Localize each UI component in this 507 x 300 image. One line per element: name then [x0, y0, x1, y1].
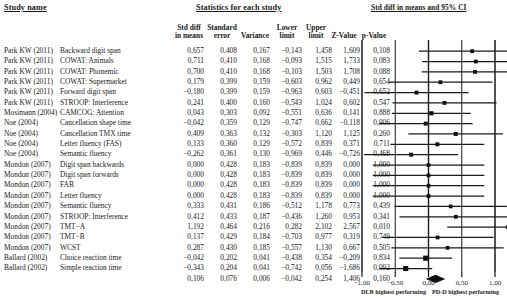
cell-outcome: STROOP: Interference [60, 98, 128, 108]
cell-variance: 0,183 [236, 160, 270, 170]
axis-tick-label-2: 0,00 [413, 279, 445, 287]
cell-std_error: 0,428 [203, 180, 237, 190]
cell-lower: −0,703 [268, 232, 302, 242]
cell-std_diff: −0,262 [170, 149, 204, 159]
footer-left-label: DLB highest performing [361, 288, 426, 295]
cell-std_error: 0,363 [203, 129, 237, 139]
cell-outcome: FAB [60, 180, 74, 190]
cell-std_error: 0,361 [203, 149, 237, 159]
effect-marker [443, 101, 447, 105]
effect-marker [473, 70, 477, 74]
axis-tick-label-1: −0,50 [379, 279, 411, 287]
cell-std_diff: 0,287 [170, 243, 204, 253]
cell-std_error: 0,428 [203, 170, 237, 180]
table-row: Noe (2004)Semantic fluency−0,2620,3610,1… [0, 149, 356, 159]
table-row: Park KW (2011)STROOP: Interference0,2410… [0, 98, 356, 108]
cell-outcome: Letter fluency [60, 191, 102, 201]
cell-outcome: TMT−A [60, 222, 85, 232]
cell-std_error: 0,410 [203, 56, 237, 66]
cell-study-name: Mondon (2007) [4, 243, 51, 253]
effect-marker [409, 153, 413, 157]
cell-lower: −0,747 [268, 118, 302, 128]
table-row: Mondon (2007)FAB0,0000,4280,183−0,8390,8… [0, 180, 356, 190]
cell-outcome: COWAT: Animals [60, 56, 114, 66]
effect-marker [415, 91, 419, 95]
cell-variance: 0,167 [236, 46, 270, 56]
cell-std_diff: 1,192 [170, 222, 204, 232]
effect-marker [427, 163, 431, 167]
cell-outcome: Simple reaction time [60, 263, 122, 273]
cell-std_diff: 0,412 [170, 212, 204, 222]
cell-outcome: CAMCOG: Attention [60, 108, 124, 118]
cell-lower: −0,551 [268, 108, 302, 118]
cell-study-name: Mondon (2007) [4, 191, 51, 201]
cell-outcome: Letter fluency (FAS) [60, 139, 121, 149]
cell-std_error: 0,400 [203, 98, 237, 108]
cell-std_diff: −0,180 [170, 87, 204, 97]
cell-study-name: Noe (2004) [4, 118, 38, 128]
cell-std_error: 0,433 [203, 212, 237, 222]
cell-std_error: 0,399 [203, 87, 237, 97]
cell-variance: 0,129 [236, 139, 270, 149]
cell-std_diff: 0,000 [170, 180, 204, 190]
effect-marker [427, 184, 431, 188]
cell-study-name: Mondon (2007) [4, 170, 51, 180]
table-row: Mondon (2007)Letter fluency0,0000,4280,1… [0, 191, 356, 201]
cell-study-name: Park KW (2011) [4, 87, 53, 97]
cell-std_diff: 0,409 [170, 129, 204, 139]
cell-variance: 0,160 [236, 98, 270, 108]
cell-std_diff: −0,042 [170, 253, 204, 263]
cell-study-name: Mosimann (2004) [4, 108, 57, 118]
column-header-variance: Variance [238, 24, 272, 41]
cell-lower: −0,303 [268, 129, 302, 139]
cell-std_diff: 0,043 [170, 108, 204, 118]
cell-variance: 0,186 [236, 201, 270, 211]
table-row: Mondon (2007)TMT−A1,1920,4640,2160,2822,… [0, 222, 356, 232]
table-row: Mondon (2007)Digit span backwards0,0000,… [0, 160, 356, 170]
cell-variance: 0,187 [236, 212, 270, 222]
axis-tick-label-3: 0,50 [446, 279, 478, 287]
table-row: Noe (2004)Letter fluency (FAS)0,1330,360… [0, 139, 356, 149]
cell-std_error: 0,464 [203, 222, 237, 232]
effect-marker [470, 49, 474, 53]
cell-std_diff: 0,179 [170, 77, 204, 87]
effect-marker [474, 60, 478, 64]
cell-variance: 0,006 [236, 274, 270, 284]
cell-study-name: Park KW (2011) [4, 67, 53, 77]
cell-lower: −0,839 [268, 191, 302, 201]
table-row: Ballard (2002)Choice reaction time−0,042… [0, 253, 356, 263]
cell-std_diff: 0,333 [170, 201, 204, 211]
cell-std_diff: −0,343 [170, 263, 204, 273]
cell-lower: −0,042 [268, 274, 302, 284]
cell-variance: 0,183 [236, 180, 270, 190]
cell-outcome: Forward digit span [60, 87, 116, 97]
cell-variance: 0,183 [236, 170, 270, 180]
table-row: Park KW (2011)Backward digit span0,6570,… [0, 46, 356, 56]
cell-lower: −0,839 [268, 160, 302, 170]
cell-outcome: COWAT: Supermarket [60, 77, 127, 87]
table-row: Mondon (2007)Semantic fluency0,3330,4310… [0, 201, 356, 211]
cell-variance: 0,168 [236, 56, 270, 66]
cell-study-name: Mondon (2007) [4, 232, 51, 242]
cell-std_diff: 0,133 [170, 139, 204, 149]
cell-lower: −0,572 [268, 139, 302, 149]
cell-std_error: 0,408 [203, 46, 237, 56]
effect-marker [454, 215, 458, 219]
cell-lower: −0,557 [268, 243, 302, 253]
footer-right-label: PD-D highest performing [432, 288, 499, 295]
cell-std_error: 0,399 [203, 77, 237, 87]
cell-variance: 0,216 [236, 222, 270, 232]
effect-marker [454, 132, 458, 136]
forest-plot-figure: Study name Statistics for each study Std… [0, 0, 507, 300]
cell-outcome: WCST [60, 243, 81, 253]
cell-lower: −0,438 [268, 253, 302, 263]
cell-std_diff: 0,000 [170, 170, 204, 180]
header-study-name: Study name [4, 3, 47, 12]
cell-outcome: Cancellation TMX time [60, 129, 130, 139]
cell-std_error: 0,428 [203, 160, 237, 170]
cell-std_error: 0,428 [203, 191, 237, 201]
cell-std_error: 0,410 [203, 67, 237, 77]
table-row: Noe (2004)Cancellation shape time−0,0420… [0, 118, 356, 128]
cell-lower: −0,963 [268, 87, 302, 97]
cell-variance: 0,159 [236, 77, 270, 87]
